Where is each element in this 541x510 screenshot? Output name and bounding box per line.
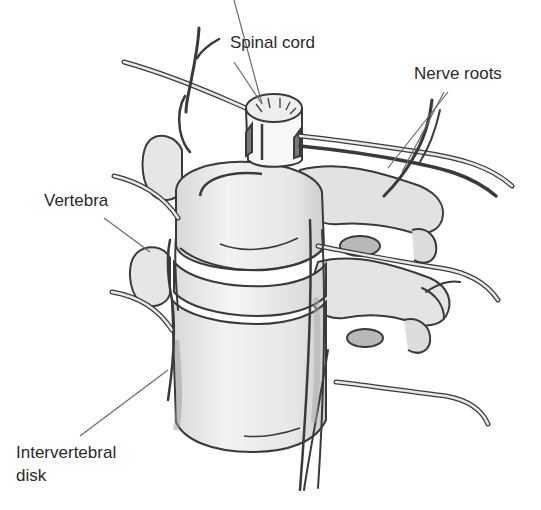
spine-anatomy-figure: Spinal cord Nerve roots Vertebra Interve… xyxy=(0,0,541,510)
spinal-cord-shape xyxy=(246,94,302,167)
label-vertebra: Vertebra xyxy=(44,191,108,211)
leader-vertebra xyxy=(104,218,150,252)
label-nerve-roots: Nerve roots xyxy=(414,64,502,84)
label-spinal-cord: Spinal cord xyxy=(230,33,315,53)
leader-intervertebral-disk xyxy=(80,370,168,436)
vertebra-body-lower xyxy=(172,300,326,452)
label-intervertebral-disk: Intervertebral disk xyxy=(16,441,116,487)
vertebra-body-upper xyxy=(176,162,324,270)
leader-nerve-roots-2 xyxy=(402,92,444,172)
